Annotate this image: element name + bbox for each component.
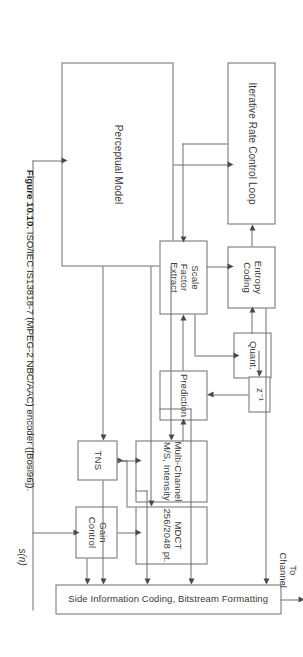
arrowhead-gain-to-sideinfo: [84, 578, 90, 584]
arrowhead-perceptual-to-multichannel: [168, 434, 174, 440]
wire-perceptual-to-mdct: [150, 266, 151, 504]
wire-prediction-to-sideinfo-run: [190, 408, 191, 582]
block-gain-control: Gain Control: [75, 506, 117, 558]
wire-mdct-to-tns: [126, 460, 127, 506]
wire-perceptual-to-tns: [102, 266, 103, 438]
wire-prediction-to-sideinfo-riser: [159, 408, 191, 409]
arrowhead-multichannel-to-prediction: [180, 418, 186, 424]
arrowhead-perceptual-to-iterative: [227, 161, 233, 167]
block-scale-factor-extract: Scale Factor Extract: [159, 240, 207, 314]
wire-multichannel-to-sideinfo-riser: [135, 490, 147, 491]
block-unit-delay-label: z⁻¹: [254, 387, 265, 400]
arrowhead-scale-to-quant: [233, 352, 239, 358]
arrowhead-input-to-gain: [73, 529, 79, 535]
arrowhead-quant-to-entropy: [249, 306, 255, 312]
arrowhead-entropy-to-iterative: [249, 224, 255, 230]
wire-prediction-to-scale: [182, 316, 183, 370]
wire-scale-to-quant-riser: [194, 355, 233, 356]
wire-multichannel-to-sideinfo-run: [146, 490, 147, 582]
arrowhead-zinv-to-prediction: [207, 391, 213, 397]
wire-sideinfo-to-channel: [280, 599, 298, 600]
arrowhead-prediction-to-scale: [180, 314, 186, 320]
wire-input-riser: [32, 532, 73, 533]
arrowhead-prediction-to-sideinfo: [188, 578, 194, 584]
wire-scale-to-quant-run: [194, 314, 195, 355]
arrowhead-scale-to-entropy: [227, 263, 233, 269]
arrowhead-tns-to-multichannel: [135, 457, 141, 463]
block-perceptual-model: Perceptual Model: [61, 62, 173, 266]
wire-perceptual-to-multichannel: [170, 266, 171, 438]
arrowhead-entropy-to-sideinfo: [263, 578, 269, 584]
block-tns: TNS: [77, 440, 117, 480]
block-iterative-rate-control-loop: Iterative Rate Control Loop: [227, 62, 275, 224]
arrowhead-iterative-to-scale: [180, 236, 186, 242]
figure-page: Perceptual Model Iterative Rate Control …: [0, 0, 303, 657]
rotated-figure-wrapper: Perceptual Model Iterative Rate Control …: [0, 0, 303, 657]
block-multi-channel-label: Multi-Channel M/S, Intensity: [160, 441, 181, 501]
arrowhead-input-to-perceptual: [61, 157, 67, 163]
block-side-information-coding: Side Information Coding, Bitstream Forma…: [55, 584, 281, 614]
wire-input-to-perceptual-riser: [32, 160, 61, 161]
block-side-information-coding-label: Side Information Coding, Bitstream Forma…: [68, 594, 268, 605]
wire-scale-to-entropy: [206, 266, 227, 267]
label-to-channel: To Channel: [276, 552, 297, 587]
block-entropy-coding: Entropy Coding: [227, 246, 275, 308]
arrowhead-to-channel: [298, 596, 303, 602]
figure-caption: Figure 10.10. ISO/IEC IS13818-7 (MPEG-2 …: [24, 40, 35, 620]
figure-stage: Perceptual Model Iterative Rate Control …: [0, 0, 303, 657]
figure-number: Figure 10.10.: [24, 169, 35, 228]
wire-iterative-drop: [182, 143, 227, 144]
wire-entropy-to-sideinfo: [265, 308, 266, 582]
arrowhead-perceptual-to-tns: [100, 434, 106, 440]
wire-perceptual-to-iterative: [173, 164, 227, 165]
arrowhead-perceptual-to-mdct: [148, 500, 154, 506]
arrowhead-into-zinv: [256, 370, 262, 376]
wire-mdct-drop: [126, 506, 135, 507]
block-scale-factor-extract-label: Scale Factor Extract: [167, 262, 199, 292]
arrowhead-gain-to-mdct: [135, 529, 141, 535]
block-entropy-coding-label: Entropy Coding: [240, 260, 261, 293]
wire-gain-to-mdct: [117, 532, 135, 533]
wire-tns-to-sideinfo: [102, 480, 103, 582]
block-prediction-label: Prediction: [178, 373, 189, 416]
wire-tns-to-multichannel: [117, 460, 135, 461]
arrowhead-tns-to-sideinfo: [100, 578, 106, 584]
figure-caption-text: ISO/IEC IS13818-7 (MPEG-2 NBC/AAC) encod…: [24, 231, 35, 491]
encoder-block-diagram: Perceptual Model Iterative Rate Control …: [56, 40, 299, 620]
arrowhead-multichannel-to-sideinfo: [144, 578, 150, 584]
block-quantizer-label: Quant.: [247, 340, 258, 369]
block-tns-label: TNS: [92, 450, 103, 469]
block-perceptual-model-label: Perceptual Model: [111, 124, 122, 203]
block-iterative-rate-control-loop-label: Iterative Rate Control Loop: [245, 82, 256, 204]
block-mdct-label: MDCT 256/2048 pt.: [160, 508, 181, 562]
block-unit-delay: z⁻¹: [248, 376, 270, 412]
wire-iterative-to-scale: [182, 143, 183, 238]
block-prediction: Prediction: [159, 370, 207, 420]
